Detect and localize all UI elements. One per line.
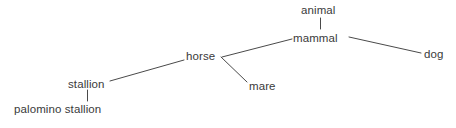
- node-dog: dog: [424, 48, 444, 61]
- edge-mammal-dog: [349, 37, 421, 53]
- edge-horse-stallion: [110, 60, 184, 81]
- edge-mammal-horse: [222, 39, 292, 57]
- hierarchy-diagram: animal mammal dog horse mare stallion pa…: [0, 0, 456, 128]
- node-horse: horse: [186, 50, 215, 63]
- node-animal: animal: [301, 4, 335, 17]
- edge-horse-mare: [221, 57, 247, 82]
- node-stallion: stallion: [68, 78, 105, 91]
- node-mammal: mammal: [293, 32, 338, 45]
- node-palomino-stallion: palomino stallion: [14, 103, 101, 116]
- node-mare: mare: [249, 80, 276, 93]
